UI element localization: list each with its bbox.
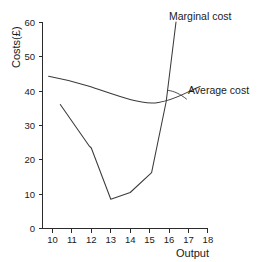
y-tick-label-30: 30 xyxy=(24,120,35,131)
y-tick-label-0: 0 xyxy=(30,223,35,234)
x-tick-label-16: 16 xyxy=(164,234,175,245)
x-tick-label-15: 15 xyxy=(144,234,155,245)
y-axis-ticks xyxy=(39,23,43,229)
marginal-cost-curve xyxy=(60,22,176,199)
x-tick-label-13: 13 xyxy=(106,234,117,245)
average-cost-curve xyxy=(49,76,201,103)
x-axis-ticks xyxy=(53,229,208,233)
y-tick-label-40: 40 xyxy=(24,86,35,97)
y-tick-label-60: 60 xyxy=(24,17,35,28)
marginal-cost-label: Marginal cost xyxy=(169,10,232,22)
x-tick-label-18: 18 xyxy=(203,234,214,245)
average-cost-leader-line xyxy=(169,91,187,100)
y-tick-label-20: 20 xyxy=(24,154,35,165)
x-tick-label-10: 10 xyxy=(47,234,58,245)
x-axis-title: Output xyxy=(176,247,209,259)
x-tick-label-11: 11 xyxy=(67,234,77,245)
x-tick-label-14: 14 xyxy=(125,234,136,245)
average-cost-label: Average cost xyxy=(188,84,249,96)
y-axis-title: Costs(£) xyxy=(10,26,22,68)
x-tick-label-17: 17 xyxy=(183,234,194,245)
y-tick-label-50: 50 xyxy=(24,51,35,62)
cost-curves-chart: 0 10 20 30 40 50 60 10 11 12 13 14 15 16… xyxy=(0,0,263,262)
chart-canvas: 0 10 20 30 40 50 60 10 11 12 13 14 15 16… xyxy=(0,0,263,262)
x-tick-label-12: 12 xyxy=(86,234,97,245)
y-tick-label-10: 10 xyxy=(24,189,35,200)
